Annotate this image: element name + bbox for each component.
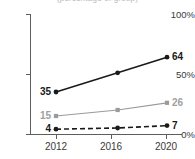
- x-axis-label-2012: 2012: [36, 141, 76, 152]
- y-tick-0: [26, 134, 31, 135]
- y-axis-label-100: 100%: [169, 10, 195, 19]
- data-point-s1-2: [115, 70, 120, 75]
- x-axis-label-2016: 2016: [91, 141, 131, 152]
- data-point-s1-3: [165, 55, 170, 60]
- x-axis-line: [30, 134, 182, 135]
- x-tick-2016: [111, 135, 112, 139]
- data-point-s3-1: [54, 127, 59, 132]
- y-axis-label-50: 50%: [169, 70, 195, 79]
- line-chart: (percentage of group) 100% 50% 0% 2012 2…: [0, 0, 195, 159]
- x-tick-2012: [56, 135, 57, 139]
- data-label-series3-start: 4: [45, 124, 51, 134]
- series-line-3: [56, 126, 167, 130]
- series-line-2: [56, 103, 167, 116]
- y-axis-label-0: 0%: [169, 130, 195, 139]
- y-tick-50: [26, 74, 31, 75]
- x-axis-label-2020: 2020: [146, 141, 186, 152]
- data-point-s2-2: [116, 108, 120, 112]
- data-label-series1-end: 64: [172, 52, 183, 62]
- data-point-s1-1: [54, 90, 59, 95]
- data-label-series2-end: 26: [172, 98, 183, 108]
- chart-title: (percentage of group): [0, 0, 195, 3]
- series-line-1: [56, 57, 167, 92]
- x-tick-2020: [166, 135, 167, 139]
- data-point-s3-2: [115, 126, 120, 131]
- data-label-series1-start: 35: [40, 87, 51, 97]
- data-point-s2-1: [54, 114, 58, 118]
- data-label-series3-end: 7: [172, 121, 178, 131]
- y-tick-100: [26, 14, 31, 15]
- data-label-series2-start: 15: [40, 111, 51, 121]
- data-point-s2-3: [165, 101, 169, 105]
- data-point-s3-3: [165, 123, 170, 128]
